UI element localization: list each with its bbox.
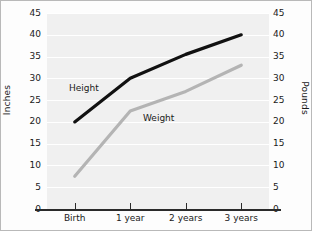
x-tick-label-3: 3 years bbox=[211, 213, 271, 223]
left-tick-45: 45 bbox=[15, 9, 41, 18]
right-tick-5: 5 bbox=[273, 183, 299, 192]
x-tick-mark-3 bbox=[241, 203, 242, 209]
series-label-height: Height bbox=[69, 83, 99, 93]
left-tick-20: 20 bbox=[15, 117, 41, 126]
left-tick-25: 25 bbox=[15, 96, 41, 105]
series-label-weight: Weight bbox=[143, 113, 174, 123]
right-tick-30: 30 bbox=[273, 74, 299, 83]
right-tick-45: 45 bbox=[273, 9, 299, 18]
right-tick-20: 20 bbox=[273, 117, 299, 126]
left-tick-5: 5 bbox=[15, 183, 41, 192]
x-tick-label-2: 2 years bbox=[156, 213, 216, 223]
left-tick-10: 10 bbox=[15, 161, 41, 170]
x-tick-mark-0 bbox=[75, 203, 76, 209]
right-axis-ticks: 45 40 35 30 25 20 15 10 5 0 bbox=[273, 1, 299, 231]
left-axis-ticks: 45 40 35 30 25 20 15 10 5 0 bbox=[15, 1, 41, 231]
right-tick-10: 10 bbox=[273, 161, 299, 170]
growth-chart-figure: Inches Pounds 45 40 35 30 25 20 15 10 5 … bbox=[0, 0, 312, 231]
right-tick-35: 35 bbox=[273, 52, 299, 61]
x-tick-label-1: 1 year bbox=[100, 213, 160, 223]
right-tick-40: 40 bbox=[273, 30, 299, 39]
x-tick-mark-2 bbox=[186, 203, 187, 209]
left-tick-35: 35 bbox=[15, 52, 41, 61]
right-tick-25: 25 bbox=[273, 96, 299, 105]
right-tick-15: 15 bbox=[273, 139, 299, 148]
x-axis-line bbox=[35, 209, 281, 211]
left-axis-title: Inches bbox=[2, 76, 12, 124]
x-tick-mark-1 bbox=[130, 203, 131, 209]
x-tick-label-0: Birth bbox=[45, 213, 105, 223]
plot-area bbox=[47, 13, 269, 209]
series-lines bbox=[47, 13, 269, 209]
left-tick-30: 30 bbox=[15, 74, 41, 83]
left-tick-15: 15 bbox=[15, 139, 41, 148]
right-axis-title: Pounds bbox=[300, 73, 310, 123]
left-tick-40: 40 bbox=[15, 30, 41, 39]
